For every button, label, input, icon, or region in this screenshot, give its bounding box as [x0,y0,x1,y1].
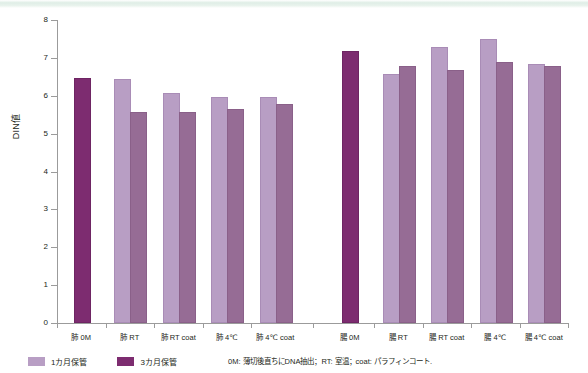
x-tick-mark [251,323,252,328]
bar-5-baseline [342,51,359,323]
x-tick-label: 肺 RT coat [154,331,203,342]
y-tick-label: 8 [28,15,48,24]
x-tick-label: 腸 RT coat [423,331,472,342]
legend-swatch-icon [117,357,134,366]
y-tick-label: 3 [28,204,48,213]
legend-item-1: 1カ月保管 [28,356,87,367]
bar-7-1month [431,47,448,323]
bar-8-1month [480,39,497,323]
legend-swatch-icon [28,357,45,366]
x-tick-label: 肺 RT [106,331,155,342]
x-tick-label: 腸 4℃ [471,331,520,342]
bar-3-3month [227,109,244,323]
x-tick-mark [374,323,375,328]
y-tick-label: 7 [28,53,48,62]
bar-1-3month [130,112,147,323]
chart-legend: 1カ月保管3カ月保管 [28,353,207,369]
y-tick-label: 1 [28,280,48,289]
legend-label: 3カ月保管 [140,356,176,367]
bar-8-3month [496,62,513,323]
bar-9-1month [528,64,545,323]
legend-label: 1カ月保管 [51,356,87,367]
bar-6-3month [399,66,416,323]
x-tick-mark [568,323,569,328]
bar-7-3month [447,70,464,323]
legend-item-2: 3カ月保管 [117,356,176,367]
x-tick-label: 腸 0M [326,331,375,342]
x-tick-mark [423,323,424,328]
y-axis-title: DIN値 [9,52,22,202]
y-tick-label: 4 [28,167,48,176]
y-tick-label: 6 [28,91,48,100]
x-tick-label: 腸 4℃ coat [520,331,569,342]
bar-6-1month [383,74,400,323]
bar-2-1month [163,93,180,323]
x-tick-label: 腸 RT [374,331,423,342]
x-tick-mark [106,323,107,328]
x-tick-mark [520,323,521,328]
x-tick-mark [471,323,472,328]
bar-4-3month [276,104,293,323]
bars-layer [57,20,568,323]
x-tick-mark [313,323,314,328]
din-value-bar-chart: DIN値 876543210 肺 0M肺 RT肺 RT coat肺 4℃肺 4℃… [0,0,588,373]
bar-2-3month [179,112,196,323]
x-tick-label: 肺 4℃ [203,331,252,342]
x-tick-mark [154,323,155,328]
y-tick-label: 2 [28,242,48,251]
x-tick-mark [203,323,204,328]
y-tick-label: 5 [28,129,48,138]
bar-0-baseline [74,78,91,323]
bar-3-1month [211,97,228,323]
x-tick-label: 肺 0M [57,331,106,342]
y-tick-label: 0 [28,318,48,327]
bar-9-3month [544,66,561,323]
bar-4-1month [260,97,277,323]
bar-1-1month [114,79,131,323]
x-tick-mark [57,323,58,328]
chart-footnote: 0M: 薄切後直ちにDNA抽出；RT: 室温；coat: パラフィンコート. [228,355,432,366]
x-tick-label: 肺 4℃ coat [251,331,300,342]
